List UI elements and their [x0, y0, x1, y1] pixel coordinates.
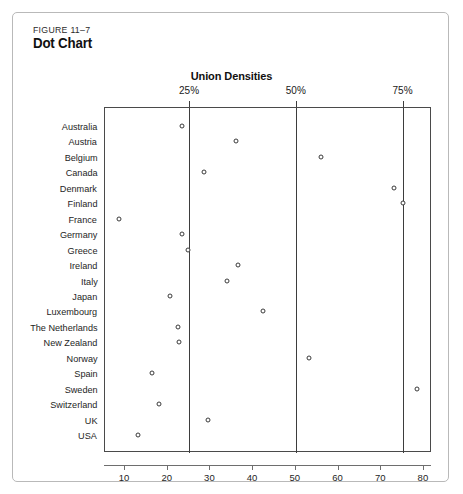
data-point-australia [179, 124, 184, 129]
category-label-uk: UK [85, 414, 105, 425]
category-label-sweden: Sweden [64, 383, 105, 394]
category-label-austria: Austria [69, 136, 105, 147]
figure-card: FIGURE 11–7 Dot Chart Union Densities 25… [12, 12, 449, 482]
category-label-switzerland: Switzerland [50, 399, 105, 410]
category-label-usa: USA [79, 430, 105, 441]
plot-area: 25%50%75% AustraliaAustriaBelgiumCanadaD… [104, 107, 431, 452]
x-axis-tick [380, 465, 381, 470]
gridline-75 [403, 108, 404, 453]
x-axis-label: 70 [375, 472, 386, 483]
category-label-denmark: Denmark [60, 182, 105, 193]
data-point-italy [225, 278, 230, 283]
data-point-uk [205, 417, 210, 422]
percent-label: 50% [286, 85, 306, 96]
data-point-france [117, 216, 122, 221]
percent-tick-75 [403, 101, 404, 107]
x-axis-label: 10 [119, 472, 130, 483]
category-label-italy: Italy [81, 275, 105, 286]
data-point-germany [179, 232, 184, 237]
category-label-luxembourg: Luxembourg [47, 306, 105, 317]
x-axis-label: 80 [418, 472, 429, 483]
x-axis-label: 30 [204, 472, 215, 483]
category-label-germany: Germany [60, 229, 105, 240]
x-axis-tick [423, 465, 424, 470]
x-axis-label: 20 [161, 472, 172, 483]
category-label-france: France [69, 213, 105, 224]
data-point-greece [185, 247, 190, 252]
data-point-new-zealand [176, 340, 181, 345]
percent-tick-50 [296, 101, 297, 107]
x-axis-tick [295, 465, 296, 470]
data-point-luxembourg [261, 309, 266, 314]
data-point-the-netherlands [176, 324, 181, 329]
category-label-australia: Australia [62, 121, 105, 132]
category-label-norway: Norway [66, 352, 105, 363]
category-label-spain: Spain [74, 368, 105, 379]
category-label-the-netherlands: The Netherlands [30, 321, 105, 332]
figure-title: Dot Chart [33, 35, 92, 51]
data-point-norway [307, 355, 312, 360]
data-point-japan [167, 293, 172, 298]
data-point-belgium [319, 154, 324, 159]
x-axis-tick [209, 465, 210, 470]
gridline-50 [296, 108, 297, 453]
x-axis-line [104, 465, 431, 466]
percent-label: 25% [179, 85, 199, 96]
category-label-canada: Canada [65, 167, 105, 178]
x-axis-tick [124, 465, 125, 470]
category-label-finland: Finland [67, 198, 105, 209]
data-point-ireland [235, 263, 240, 268]
percent-tick-25 [189, 101, 190, 107]
data-point-canada [201, 170, 206, 175]
data-point-sweden [415, 386, 420, 391]
category-label-greece: Greece [67, 244, 105, 255]
x-axis-label: 60 [332, 472, 343, 483]
category-label-new-zealand: New Zealand [44, 337, 105, 348]
gridline-25 [189, 108, 190, 453]
category-label-belgium: Belgium [64, 151, 105, 162]
data-point-spain [149, 371, 154, 376]
data-point-austria [234, 139, 239, 144]
x-axis-label: 40 [247, 472, 258, 483]
x-axis-tick [252, 465, 253, 470]
x-axis-tick [167, 465, 168, 470]
category-label-japan: Japan [72, 290, 105, 301]
data-point-finland [400, 201, 405, 206]
x-axis-tick [338, 465, 339, 470]
percent-label: 75% [393, 85, 413, 96]
chart-title: Union Densities [13, 70, 450, 82]
data-point-usa [135, 433, 140, 438]
x-axis-label: 50 [290, 472, 301, 483]
figure-number: FIGURE 11–7 [33, 24, 90, 35]
data-point-switzerland [157, 402, 162, 407]
data-point-denmark [392, 185, 397, 190]
category-label-ireland: Ireland [69, 260, 105, 271]
